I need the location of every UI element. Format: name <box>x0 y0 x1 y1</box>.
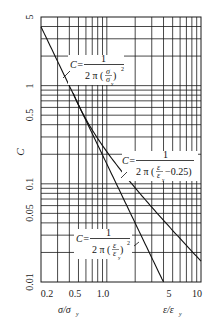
x-tick-1.0: 1.0 <box>97 288 110 299</box>
y-tick-1: 1 <box>24 84 35 89</box>
y-tick-0.01: 0.01 <box>24 273 35 291</box>
x-axis-label-left: σ/σ y <box>58 304 79 317</box>
x-label-eps: ε/ε <box>163 304 174 315</box>
formula2-numerator: 1 <box>163 149 168 160</box>
formula3-denominator: 2 π ( <box>92 244 111 256</box>
y-tick-5: 5 <box>24 15 35 20</box>
x-label-sigma: σ/σ <box>58 304 72 315</box>
x-axis-ticks: 0.2 0.5 1.0 5 10 <box>41 288 202 299</box>
x-label-eps-sub: y <box>178 311 182 317</box>
formula-annotation-1: C= 1 2 π ( σ σ y ) 2 <box>63 53 124 86</box>
formula1-denominator: 2 π ( <box>85 70 104 82</box>
x-tick-0.2: 0.2 <box>41 288 54 299</box>
y-axis-label: C <box>14 148 26 156</box>
x-label-sigma-sub: y <box>75 311 79 317</box>
formula1-numerator: 1 <box>101 53 106 64</box>
formula1-lhs: C= <box>70 59 83 70</box>
formula-annotation-2: C= 1 2 π ( ε ε y −0.25) <box>121 149 198 182</box>
formula-annotation-3: C= 1 2 π ( ε ε y ) 2 <box>74 227 139 260</box>
formula1-exponent: 2 <box>121 66 124 72</box>
y-tick-0.5: 0.5 <box>24 109 35 122</box>
formula3-numerator: 1 <box>106 227 111 238</box>
formula1-close: ) <box>113 70 116 82</box>
formula2-tail: −0.25) <box>165 166 191 178</box>
formula3-lhs: C= <box>76 233 89 244</box>
formula3-exponent: 2 <box>127 240 130 246</box>
y-tick-0.05: 0.05 <box>24 204 35 222</box>
log-log-chart: C= 1 2 π ( σ σ y ) 2 C= 1 2 π ( ε ε y −0… <box>0 0 220 325</box>
x-axis-label-right: ε/ε y <box>163 304 182 317</box>
x-tick-5: 5 <box>167 288 172 299</box>
x-tick-10: 10 <box>192 288 202 299</box>
formula2-lhs: C= <box>122 155 135 166</box>
y-tick-0.1: 0.1 <box>24 178 35 191</box>
formula3-close: ) <box>120 244 123 256</box>
formula2-denominator: 2 π ( <box>136 166 155 178</box>
x-tick-0.5: 0.5 <box>69 288 82 299</box>
